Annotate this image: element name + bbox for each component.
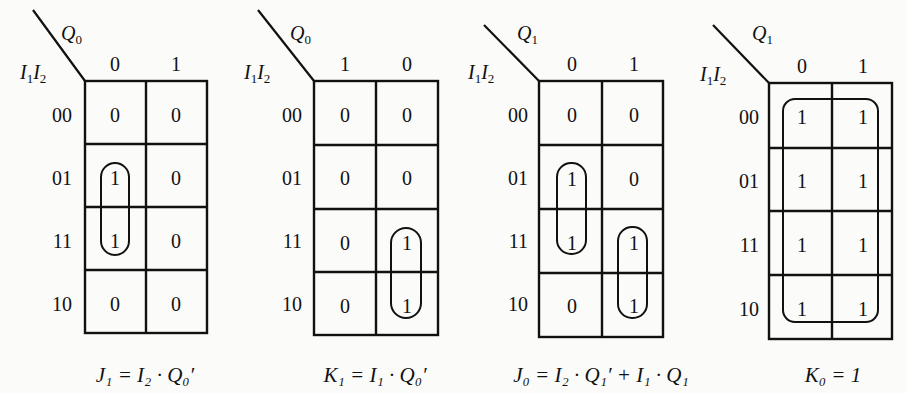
- cell-value: 0: [171, 167, 181, 189]
- cell-value: 1: [567, 232, 577, 254]
- cell-value: 1: [110, 167, 120, 189]
- column-label: 0: [797, 55, 807, 77]
- cell-value: 0: [340, 167, 350, 189]
- cell-value: 1: [629, 232, 639, 254]
- row-label: 00: [52, 104, 72, 126]
- cell-value: 0: [171, 104, 181, 126]
- column-label: 1: [858, 55, 868, 77]
- row-label: 11: [53, 230, 72, 252]
- cell-value: 0: [171, 230, 181, 252]
- cell-value: 1: [402, 295, 412, 317]
- row-label: 10: [52, 293, 72, 315]
- cell-value: 1: [858, 170, 868, 192]
- cell-value: 0: [402, 104, 412, 126]
- row-label: 01: [508, 167, 528, 189]
- row-variables: I1I2: [19, 61, 46, 86]
- cell-value: 0: [402, 167, 412, 189]
- column-label: 0: [110, 53, 120, 75]
- equation: J₁ = I₂ · Q₀′: [96, 363, 195, 387]
- cell-value: 0: [340, 232, 350, 254]
- kmap-grid: [85, 81, 207, 333]
- row-label: 01: [282, 167, 302, 189]
- cell-value: 1: [797, 298, 807, 320]
- row-label: 10: [282, 293, 302, 315]
- column-label: 1: [340, 53, 350, 75]
- cell-value: 0: [340, 104, 350, 126]
- cell-value: 1: [629, 295, 639, 317]
- equation: K₀ = 1: [804, 363, 861, 387]
- column-variable: Q1: [752, 22, 773, 47]
- row-variables: I1I2: [467, 61, 494, 86]
- column-label: 0: [402, 53, 412, 75]
- row-label: 00: [282, 104, 302, 126]
- cell-value: 1: [858, 234, 868, 256]
- equation: J₀ = I₂ · Q₁′ + I₁ · Q₁: [513, 363, 689, 387]
- cell-value: 1: [858, 106, 868, 128]
- row-label: 10: [739, 298, 759, 320]
- column-label: 1: [629, 53, 639, 75]
- column-variable: Q0: [290, 22, 311, 47]
- cell-value: 0: [567, 295, 577, 317]
- cell-value: 1: [110, 230, 120, 252]
- column-variable: Q0: [61, 22, 82, 47]
- row-label: 11: [740, 234, 759, 256]
- cell-value: 0: [171, 293, 181, 315]
- equation: K₁ = I₁ · Q₀′: [322, 363, 426, 387]
- cell-value: 0: [110, 104, 120, 126]
- cell-value: 0: [110, 293, 120, 315]
- column-label: 1: [171, 53, 181, 75]
- cell-value: 1: [797, 106, 807, 128]
- cell-value: 1: [402, 232, 412, 254]
- kmap-k0: Q1 I1I2 0 1 00 01 11 10 1 1 1 1 1 1 1 1 …: [699, 22, 892, 387]
- cell-value: 0: [340, 295, 350, 317]
- column-variable: Q1: [517, 22, 538, 47]
- row-label: 00: [739, 106, 759, 128]
- row-label: 01: [52, 167, 72, 189]
- row-label: 01: [739, 170, 759, 192]
- row-variables: I1I2: [243, 61, 270, 86]
- kmap-figure: Q0 I1I2 0 1 00 01 11 10 0 0 1 0 1 0 0 0 …: [0, 0, 907, 393]
- row-label: 00: [508, 104, 528, 126]
- cell-value: 0: [629, 168, 639, 190]
- cell-value: 1: [858, 298, 868, 320]
- row-label: 11: [283, 230, 302, 252]
- kmap-j0: Q1 I1I2 0 1 00 01 11 10 0 0 1 0 1 1 0 1 …: [467, 22, 689, 387]
- kmap-j1: Q0 I1I2 0 1 00 01 11 10 0 0 1 0 1 0 0 0 …: [19, 10, 207, 387]
- row-label: 11: [509, 230, 528, 252]
- row-label: 10: [508, 293, 528, 315]
- cell-value: 1: [797, 170, 807, 192]
- cell-value: 1: [797, 234, 807, 256]
- row-variables: I1I2: [699, 63, 726, 88]
- cell-value: 0: [629, 104, 639, 126]
- kmap-grid: [314, 81, 438, 335]
- cell-value: 0: [567, 104, 577, 126]
- kmap-grid: [769, 83, 892, 339]
- cell-value: 1: [567, 168, 577, 190]
- column-label: 0: [567, 53, 577, 75]
- kmap-k1: Q0 I1I2 1 0 00 01 11 10 0 0 0 0 0 1 0 1 …: [243, 10, 438, 387]
